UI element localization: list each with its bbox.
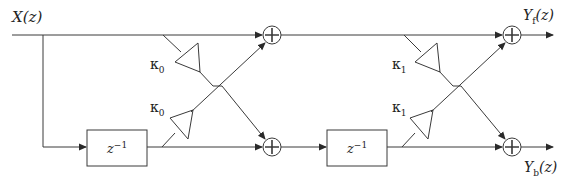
- output-backward-label: Yb(z): [524, 160, 557, 178]
- delay-label-1: z−1: [107, 141, 127, 155]
- branch-to-delay-1: [43, 35, 86, 147]
- delay-label-2: z−1: [347, 141, 367, 155]
- coefficient-label-k1-top: κ1: [392, 57, 406, 75]
- input-label: X(z): [12, 10, 42, 25]
- coefficient-label-k1-bottom: κ1: [392, 100, 406, 118]
- coefficient-label-k0-top: κ0: [150, 57, 164, 75]
- output-forward-label: Yf(z): [523, 8, 554, 26]
- multiplier-k0-top: [175, 43, 200, 72]
- lattice-diagram: [0, 0, 563, 179]
- multiplier-k1-top: [415, 43, 440, 72]
- coefficient-label-k0-bottom: κ0: [150, 100, 164, 118]
